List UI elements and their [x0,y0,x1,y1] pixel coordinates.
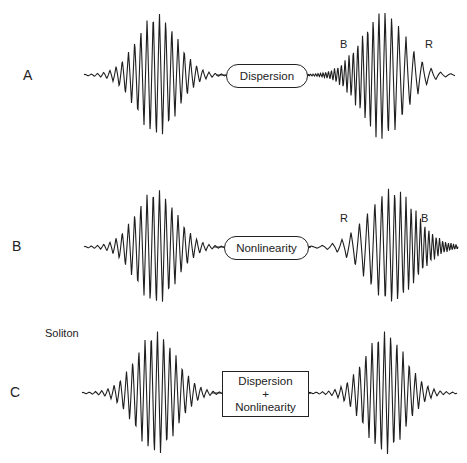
output-pulse-c [309,331,457,454]
input-pulse-c [82,332,222,453]
dispersion-box: Dispersion [226,64,308,88]
annotation-a-red: R [425,39,433,50]
output-pulse-a [308,13,455,139]
output-pulse-b [309,189,458,302]
process-line: Dispersion [240,70,294,83]
soliton-label: Soliton [45,328,79,339]
annotation-b-blue: B [421,213,428,224]
process-line: Nonlinearity [236,242,297,255]
row-label-c: C [10,385,20,399]
nonlinearity-box: Nonlinearity [224,236,309,260]
row-label-a: A [23,68,32,82]
process-line: Nonlinearity [235,401,296,414]
process-line: Dispersion [238,375,292,388]
annotation-a-blue: B [340,39,347,50]
annotation-b-red: R [340,213,348,224]
input-pulse-b [84,190,224,302]
row-label-b: B [12,239,21,253]
input-pulse-a [84,14,226,134]
dispersion-plus-nonlinearity-box: Dispersion + Nonlinearity [222,371,309,417]
process-line: + [262,388,269,401]
